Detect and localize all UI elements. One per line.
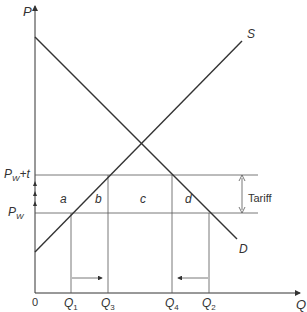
pw-plus-t-main: P — [4, 167, 12, 181]
q1-label: Q1 — [64, 297, 78, 312]
demand-curve — [35, 37, 237, 239]
pw-plus-t-label: PW+t — [4, 168, 30, 183]
supply-label: S — [247, 28, 255, 40]
q3-label: Q3 — [101, 297, 115, 312]
area-a-label: a — [60, 193, 67, 205]
y-axis-tick-arrow — [33, 181, 37, 186]
demand-label: D — [239, 243, 248, 255]
area-c-label: c — [140, 193, 146, 205]
tariff-label: Tariff — [248, 193, 272, 204]
q4-sub: 4 — [174, 303, 178, 312]
y-axis-tick-arrow — [33, 191, 37, 196]
area-d-label: d — [185, 193, 192, 205]
q2-label: Q2 — [202, 297, 216, 312]
y-axis-label: P — [23, 5, 32, 18]
x-axis-label: Q — [296, 298, 306, 311]
pw-plus-t-sub: W — [12, 174, 20, 183]
q4-main: Q — [165, 296, 174, 310]
origin-label: 0 — [32, 297, 38, 308]
q2-sub: 2 — [211, 303, 215, 312]
q2-main: Q — [202, 296, 211, 310]
q1-main: Q — [64, 296, 73, 310]
q1-sub: 1 — [73, 303, 77, 312]
q4-label: Q4 — [165, 297, 179, 312]
pw-plus-t-suffix: +t — [20, 167, 30, 181]
q3-main: Q — [101, 296, 110, 310]
pw-sub: W — [16, 212, 24, 221]
y-axis-tick-arrow — [33, 201, 37, 206]
q3-sub: 3 — [110, 303, 114, 312]
pw-main: P — [8, 205, 16, 219]
area-b-label: b — [95, 193, 102, 205]
supply-curve — [35, 41, 242, 252]
pw-label: PW — [8, 206, 24, 221]
